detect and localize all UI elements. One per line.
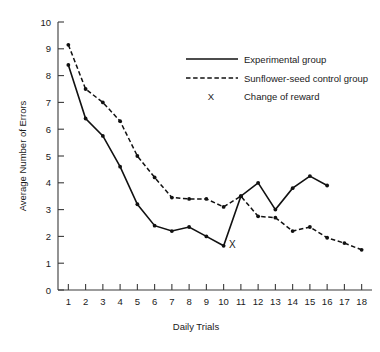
y-tick-label: 7 <box>46 97 51 108</box>
y-tick-label: 9 <box>46 43 51 54</box>
x-axis-title: Daily Trials <box>173 321 220 332</box>
data-point <box>170 229 174 233</box>
data-point <box>153 176 157 180</box>
data-point <box>222 205 226 209</box>
x-tick-label: 9 <box>204 296 209 307</box>
legend-x-swatch: X <box>208 91 215 102</box>
legend-label-change-of-reward: Change of reward <box>244 91 320 102</box>
x-tick-label: 7 <box>169 296 174 307</box>
y-tick-label: 2 <box>46 231 51 242</box>
data-point <box>308 174 312 178</box>
data-point <box>187 197 191 201</box>
chart-container: 012345678910 Average Number of Errors 12… <box>0 0 380 352</box>
x-tick-label: 18 <box>356 296 367 307</box>
x-tick-label: 5 <box>135 296 140 307</box>
y-tick-label: 4 <box>46 177 51 188</box>
data-point <box>256 181 260 185</box>
x-tick-label: 17 <box>339 296 350 307</box>
change-of-reward-marker: X <box>229 239 236 250</box>
x-axis-tick-labels: 123456789101112131415161718 <box>66 296 367 307</box>
x-tick-label: 4 <box>117 296 122 307</box>
data-point <box>135 202 139 206</box>
data-point <box>325 184 329 188</box>
y-axis-title: Average Number of Errors <box>17 100 28 211</box>
data-point <box>291 229 295 233</box>
data-point <box>84 87 88 91</box>
x-tick-label: 13 <box>270 296 281 307</box>
x-tick-label: 12 <box>253 296 264 307</box>
x-tick-label: 8 <box>186 296 191 307</box>
data-point <box>84 117 88 121</box>
data-point <box>256 214 260 218</box>
x-tick-label: 2 <box>83 296 88 307</box>
x-axis: 123456789101112131415161718 Daily Trials <box>58 284 372 332</box>
x-tick-label: 6 <box>152 296 157 307</box>
y-tick-label: 8 <box>46 70 51 81</box>
x-tick-label: 14 <box>287 296 298 307</box>
x-tick-label: 11 <box>236 296 246 307</box>
x-axis-ticks <box>68 284 361 290</box>
y-axis-tick-labels: 012345678910 <box>40 17 51 296</box>
line-chart: 012345678910 Average Number of Errors 12… <box>0 0 380 352</box>
data-point <box>170 196 174 200</box>
data-point <box>101 134 105 138</box>
data-point <box>360 248 364 252</box>
x-tick-label: 10 <box>218 296 229 307</box>
data-point <box>273 208 277 212</box>
legend-label-experimental: Experimental group <box>244 54 326 65</box>
data-point <box>153 224 157 228</box>
x-tick-label: 3 <box>100 296 105 307</box>
y-tick-label: 5 <box>46 151 51 162</box>
chart-annotations: X <box>229 239 236 250</box>
data-point <box>204 235 208 239</box>
y-axis-ticks <box>58 22 64 290</box>
y-tick-label: 1 <box>46 258 51 269</box>
data-point <box>291 186 295 190</box>
x-tick-label: 15 <box>305 296 316 307</box>
y-tick-label: 3 <box>46 204 51 215</box>
data-point <box>273 216 277 220</box>
x-tick-label: 16 <box>322 296 333 307</box>
legend: Experimental group Sunflower-seed contro… <box>186 54 368 102</box>
data-point <box>66 43 70 47</box>
x-tick-label: 1 <box>66 296 71 307</box>
y-tick-label: 6 <box>46 124 51 135</box>
data-point <box>187 225 191 229</box>
data-point <box>308 225 312 229</box>
y-axis: 012345678910 Average Number of Errors <box>17 17 64 296</box>
y-tick-label: 10 <box>40 17 51 28</box>
data-point <box>101 101 105 105</box>
data-point <box>325 236 329 240</box>
y-tick-label: 0 <box>46 285 51 296</box>
legend-label-control: Sunflower-seed control group <box>244 73 368 84</box>
data-point <box>239 194 243 198</box>
data-point <box>118 119 122 123</box>
data-point <box>222 244 226 248</box>
data-point <box>204 197 208 201</box>
data-point <box>66 63 70 67</box>
data-point <box>342 241 346 245</box>
data-point <box>118 165 122 169</box>
data-point <box>135 154 139 158</box>
